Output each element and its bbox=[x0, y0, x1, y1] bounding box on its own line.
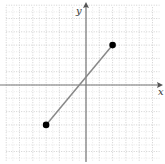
x-axis-label: x bbox=[158, 86, 164, 97]
coordinate-plane: x y bbox=[0, 0, 165, 164]
segment-end-point bbox=[109, 42, 116, 49]
segment-start-point bbox=[43, 122, 50, 129]
grid bbox=[6, 5, 159, 162]
y-axis-label: y bbox=[75, 5, 82, 16]
